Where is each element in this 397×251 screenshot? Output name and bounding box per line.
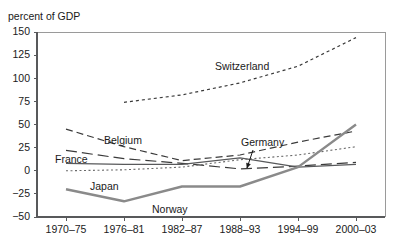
series-label-japan: Japan [90, 180, 119, 192]
y-tick-label: 100 [12, 72, 30, 84]
series-line-japan [66, 147, 356, 171]
y-tick-label: −50 [12, 210, 30, 222]
y-tick-label: 125 [12, 48, 30, 60]
series-label-belgium: Belgium [104, 134, 142, 146]
y-tick-label: −25 [12, 187, 30, 199]
y-tick-label: 0 [24, 164, 30, 176]
y-tick-label: 50 [18, 118, 30, 130]
series-label-switzerland: Switzerland [215, 60, 269, 72]
y-tick-label: 75 [18, 95, 30, 107]
x-tick-label: 1982–87 [162, 223, 203, 235]
y-tick-label: 25 [18, 141, 30, 153]
x-tick-label: 1994–99 [278, 223, 319, 235]
x-tick-label: 1988–93 [220, 223, 261, 235]
series-label-france: France [55, 153, 88, 165]
series-label-germany: Germany [241, 136, 285, 148]
y-tick-label: 150 [12, 25, 30, 37]
y-axis-title: percent of GDP [8, 10, 80, 22]
x-tick-label: 1976–81 [104, 223, 145, 235]
line-chart: −50−2502550751001251501970–751976–811982… [0, 0, 397, 251]
series-label-norway: Norway [152, 203, 188, 215]
chart-container: −50−2502550751001251501970–751976–811982… [0, 0, 397, 251]
x-tick-label: 2000–03 [336, 223, 377, 235]
x-tick-label: 1970–75 [46, 223, 87, 235]
annotation-arrow-head-germany [247, 163, 251, 168]
